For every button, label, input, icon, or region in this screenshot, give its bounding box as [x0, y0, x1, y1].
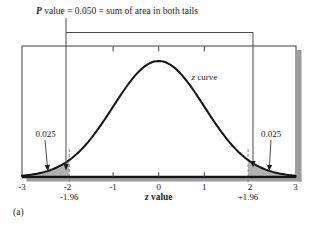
- frame-shadow-right: [297, 50, 302, 182]
- tail-area-label-right: 0.025: [261, 129, 282, 139]
- critical-value-label-left: -1.96: [60, 192, 79, 202]
- figure-p-value-two-tails: P value = 0.050 = sum of area in both ta…: [0, 0, 314, 236]
- figure-title: P value = 0.050 = sum of area in both ta…: [36, 6, 198, 16]
- tail-area-label-left: 0.025: [35, 129, 56, 139]
- x-tick-label: 1: [202, 182, 207, 192]
- curve-label-text: curve: [195, 72, 217, 82]
- title-text: value = 0.050 = sum of area in both tail…: [42, 6, 198, 16]
- curve-label: z curve: [191, 72, 218, 82]
- x-tick-label: -1: [109, 182, 117, 192]
- x-tick-label: 2: [248, 182, 253, 192]
- x-tick-label: 3: [293, 182, 298, 192]
- x-tick-label: -3: [18, 182, 26, 192]
- x-axis-title: z value: [144, 192, 172, 202]
- critical-value-label-right: +1.96: [238, 192, 259, 202]
- plot-frame: [22, 46, 296, 177]
- x-tick-label: -2: [64, 182, 72, 192]
- x-tick-label: 0: [156, 182, 161, 192]
- x-axis-title-text: value: [149, 192, 173, 202]
- chart-canvas: P value = 0.050 = sum of area in both ta…: [0, 0, 314, 236]
- panel-label: (a): [13, 207, 24, 218]
- x-axis-tick-labels: -3-2-10123: [18, 182, 298, 192]
